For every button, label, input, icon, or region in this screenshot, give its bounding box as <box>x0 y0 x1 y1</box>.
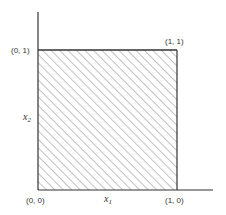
label-origin: (0, 0) <box>26 196 45 205</box>
unit-square-diagram: (0, 1) (1, 1) (0, 0) (1, 0) x2 x1 <box>0 0 226 215</box>
x-axis-label-subscript: 1 <box>108 198 112 206</box>
x-axis-label: x1 <box>103 193 112 206</box>
label-y-end: (0, 1) <box>11 46 30 55</box>
label-top-right: (1, 1) <box>165 37 184 46</box>
y-axis-label: x2 <box>22 111 31 124</box>
y-axis-label-subscript: 2 <box>27 116 31 124</box>
label-x-end: (1, 0) <box>165 196 184 205</box>
hatched-region <box>38 50 177 190</box>
